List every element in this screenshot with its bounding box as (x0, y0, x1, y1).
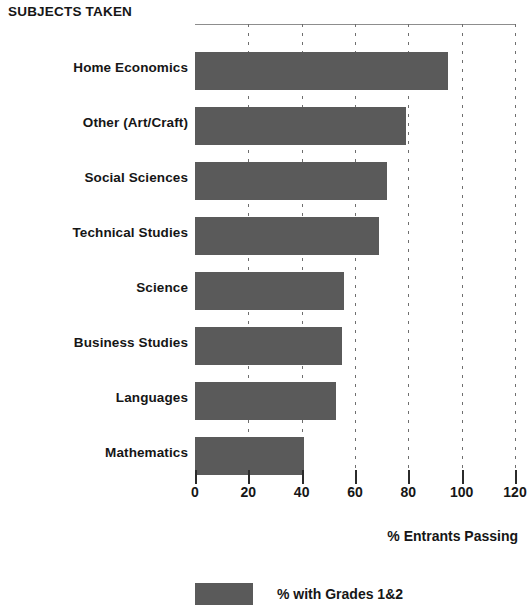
x-tick-label-20: 20 (228, 484, 268, 500)
x-axis-title: % Entrants Passing (0, 528, 518, 544)
bar-science[interactable] (195, 272, 344, 310)
x-axis: 020406080100120 (195, 470, 525, 510)
legend-swatch-grades-1-2 (195, 583, 253, 605)
gridline (408, 24, 409, 470)
bar-home-economics[interactable] (195, 52, 448, 90)
y-axis-category-labels: Home EconomicsOther (Art/Craft)Social Sc… (0, 24, 188, 470)
x-tick (408, 470, 410, 484)
x-tick (462, 470, 464, 484)
category-label-other-art-craft: Other (Art/Craft) (6, 115, 188, 130)
bar-business-studies[interactable] (195, 327, 342, 365)
gridline (515, 24, 516, 470)
bar-other-art-craft[interactable] (195, 107, 406, 145)
x-tick-label-120: 120 (495, 484, 528, 500)
legend: % with Grades 1&2 (195, 583, 403, 605)
legend-label-grades-1-2: % with Grades 1&2 (277, 586, 403, 602)
x-tick (515, 470, 517, 484)
page-title: SUBJECTS TAKEN (8, 4, 132, 19)
x-tick-label-40: 40 (282, 484, 322, 500)
category-label-languages: Languages (6, 390, 188, 405)
x-tick-label-100: 100 (442, 484, 482, 500)
gridline (462, 24, 463, 470)
x-tick-label-80: 80 (388, 484, 428, 500)
category-label-mathematics: Mathematics (6, 445, 188, 460)
bar-technical-studies[interactable] (195, 217, 379, 255)
category-label-business-studies: Business Studies (6, 335, 188, 350)
x-tick-label-60: 60 (335, 484, 375, 500)
x-tick (248, 470, 250, 484)
bar-social-sciences[interactable] (195, 162, 387, 200)
category-label-science: Science (6, 280, 188, 295)
x-tick (302, 470, 304, 484)
category-label-technical-studies: Technical Studies (6, 225, 188, 240)
x-tick (355, 470, 357, 484)
bar-languages[interactable] (195, 382, 336, 420)
category-label-social-sciences: Social Sciences (6, 170, 188, 185)
x-tick-label-0: 0 (175, 484, 215, 500)
category-label-home-economics: Home Economics (6, 60, 188, 75)
chart-figure: SUBJECTS TAKEN Home EconomicsOther (Art/… (0, 0, 528, 611)
plot-area (195, 24, 515, 470)
x-tick (195, 470, 197, 484)
